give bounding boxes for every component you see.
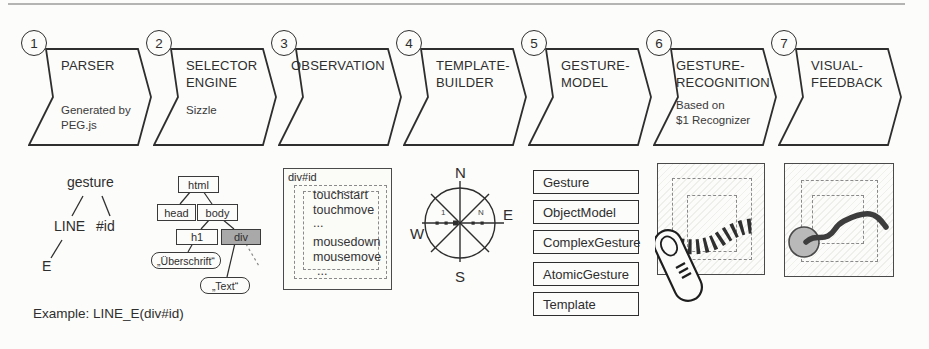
- stage-number-badge: 7: [771, 30, 797, 56]
- class-box-objectmodel: ObjectModel: [533, 200, 639, 224]
- tree-node-line: LINE: [54, 218, 85, 234]
- stage-title: TEMPLATE- BUILDER: [436, 58, 525, 91]
- stage-number-badge: 1: [21, 30, 47, 56]
- class-box-atomicgesture: AtomicGesture: [533, 262, 639, 286]
- compass-north-label: N: [455, 164, 466, 181]
- stage-title: SELECTOR ENGINE: [186, 58, 275, 91]
- stage-number-badge: 2: [146, 30, 172, 56]
- compass-last-point-label: N: [478, 208, 484, 217]
- figure-top-border: [8, 3, 905, 5]
- stroke-trail-drawing: [782, 161, 898, 281]
- dom-node-text: „Text“: [200, 277, 250, 294]
- stage-template-builder: 4 TEMPLATE- BUILDER: [403, 48, 527, 146]
- stage-number-badge: 4: [396, 30, 422, 56]
- stage-title: GESTURE- RECOGNITION: [676, 58, 775, 91]
- stage-title: VISUAL- FEEDBACK: [811, 58, 900, 91]
- tree-node-e: E: [42, 258, 51, 274]
- event-mousedown: mousedown: [313, 235, 380, 249]
- gesture-model-classes: Gesture ObjectModel ComplexGesture Atomi…: [533, 170, 639, 316]
- direction-compass: N E S W 1 N: [405, 160, 520, 295]
- finger-gesture-drawing: [655, 162, 767, 307]
- stage-title: OBSERVATION: [291, 58, 400, 75]
- visual-feedback-illustration: [782, 161, 898, 281]
- stage-parser: 1 PARSER Generated by PEG.js: [28, 48, 152, 146]
- event-observation-box: div#id touchstart touchmove ... mousedow…: [283, 168, 392, 290]
- stage-subtitle: Based on $1 Recognizer: [676, 98, 775, 128]
- stage-number-badge: 3: [271, 30, 297, 56]
- stage-observation: 3 OBSERVATION: [278, 48, 402, 146]
- gesture-grammar-tree: gesture LINE #id E: [20, 170, 130, 285]
- gesture-input-illustration: [655, 162, 767, 307]
- stage-visual-feedback: 7 VISUAL- FEEDBACK: [778, 48, 902, 146]
- stroke-trail-path: [806, 214, 886, 242]
- dom-node-html: html: [178, 176, 219, 193]
- class-box-gesture: Gesture: [533, 170, 639, 194]
- tree-node-id: #id: [96, 218, 115, 234]
- tree-node-gesture: gesture: [67, 174, 114, 190]
- pipeline-diagram: 1 PARSER Generated by PEG.js 2 SELECTOR …: [0, 0, 929, 349]
- dom-tree: html head body h1 div „Überschrift“ „Tex…: [145, 170, 270, 300]
- compass-east-label: E: [503, 206, 513, 223]
- stage-number-badge: 6: [646, 30, 672, 56]
- event-touchstart: touchstart: [313, 188, 368, 202]
- stage-gesture-recognition: 6 GESTURE- RECOGNITION Based on $1 Recog…: [653, 48, 777, 146]
- class-box-template: Template: [533, 292, 639, 316]
- event-mouse-ellipsis: ...: [317, 264, 327, 278]
- stage-number-badge: 5: [521, 30, 547, 56]
- observed-element-label: div#id: [288, 171, 317, 183]
- example-caption: Example: LINE_E(div#id): [33, 306, 184, 321]
- stage-selector-engine: 2 SELECTOR ENGINE Sizzle: [153, 48, 277, 146]
- event-mousemove: mousemove: [313, 250, 381, 264]
- stage-subtitle: Generated by PEG.js: [61, 103, 150, 133]
- compass-west-label: W: [410, 225, 424, 242]
- class-box-complexgesture: ComplexGesture: [533, 230, 639, 254]
- event-touch-ellipsis: ...: [313, 216, 323, 230]
- dom-node-head: head: [157, 204, 196, 221]
- stage-gesture-model: 5 GESTURE- MODEL: [528, 48, 652, 146]
- stage-subtitle: Sizzle: [186, 103, 275, 118]
- stage-title: PARSER: [61, 58, 150, 75]
- stage-title: GESTURE- MODEL: [561, 58, 650, 91]
- compass-first-point-label: 1: [441, 208, 445, 217]
- compass-south-label: S: [455, 268, 465, 285]
- dom-node-body: body: [197, 204, 238, 221]
- dom-node-heading-text: „Überschrift“: [151, 252, 221, 269]
- dom-node-div-highlighted: div: [221, 229, 261, 245]
- event-touchmove: touchmove: [313, 203, 374, 217]
- dom-node-h1: h1: [176, 229, 218, 245]
